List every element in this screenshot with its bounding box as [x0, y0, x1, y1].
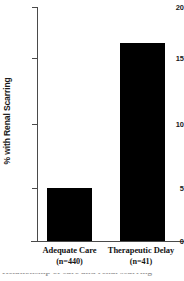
x-tick-label-therapeutic-delay-count: (n=41) [98, 256, 184, 267]
y-tick-mark-5 [32, 188, 37, 189]
y-axis-line [37, 7, 38, 241]
x-tick-label-therapeutic-delay: Therapeutic Delay (n=41) [98, 245, 184, 267]
bar-chart-figure: % with Renal Scarring 20 15 10 5 0 Adequ… [0, 0, 184, 281]
y-axis-label: % with Renal Scarring [0, 0, 14, 241]
x-tick-label-therapeutic-delay-text: Therapeutic Delay [108, 245, 174, 255]
y-tick-mark-15 [32, 58, 37, 59]
x-tick-label-adequate-care-text: Adequate Care [42, 245, 96, 255]
y-tick-mark-0 [32, 241, 37, 242]
bar-therapeutic-delay [120, 43, 165, 241]
bar-adequate-care [47, 188, 92, 241]
y-tick-mark-20 [32, 7, 37, 8]
clipped-caption: Relationship of care and renal scarring [0, 273, 184, 281]
clipped-caption-text: Relationship of care and renal scarring [2, 273, 152, 276]
y-tick-mark-10 [32, 124, 37, 125]
y-tick-label-20: 20 [153, 4, 184, 12]
y-axis-label-text: % with Renal Scarring [2, 77, 12, 164]
